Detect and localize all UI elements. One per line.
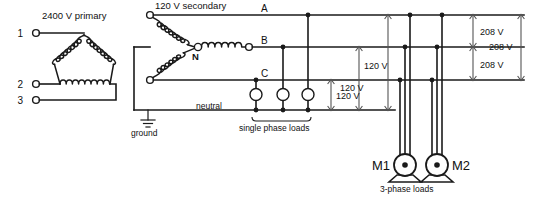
- primary-terminal-3-node: [33, 97, 40, 104]
- dim-120v-2-label: 120 V: [340, 83, 364, 93]
- three-phase-loads-label: 3-phase loads: [380, 184, 433, 194]
- load-1-symbol: [250, 89, 262, 101]
- primary-title-label: 2400 V primary: [42, 10, 107, 21]
- phase-b-label: B: [261, 35, 268, 46]
- primary-coil-right-tail: [110, 65, 114, 85]
- neutral-point-label: N: [192, 51, 199, 62]
- secondary-coil-a: [153, 18, 189, 45]
- primary-delta-group: [33, 30, 116, 104]
- motor-m2-label: M2: [452, 158, 470, 173]
- secondary-terminal-b-node: [246, 44, 253, 51]
- primary-terminal-1-label: 1: [17, 28, 23, 39]
- dim-208v-2-label: 208 V: [489, 42, 513, 52]
- primary-terminal-1-node: [33, 30, 40, 37]
- secondary-coil-c: [153, 53, 185, 78]
- transformer-wiring-diagram: 2400 V primary 120 V secondary 1 2 3 A B…: [0, 0, 533, 204]
- primary-coil-right: [83, 35, 115, 64]
- motor-m1-group: [389, 154, 421, 182]
- primary-coil-left: [53, 35, 85, 64]
- motor-m1-label: M1: [372, 158, 390, 173]
- single-phase-loads-label: single phase loads: [239, 123, 309, 133]
- neutral-point-node: [194, 43, 201, 50]
- ground-label: ground: [131, 128, 158, 138]
- motor-m2-group: [421, 154, 453, 182]
- primary-terminal-2-node: [33, 81, 40, 88]
- dim-120v-3-label: 120 V: [364, 61, 388, 71]
- m2-shaft-dot: [434, 162, 440, 168]
- primary-terminal-3-label: 3: [17, 95, 23, 106]
- single-phase-loads-brace: [252, 117, 311, 121]
- wiring-svg: 2400 V primary 120 V secondary 1 2 3 A B…: [0, 0, 533, 204]
- motor-feeders-group: [398, 13, 445, 160]
- load-2-symbol: [277, 89, 289, 101]
- single-phase-loads-group: [250, 13, 314, 121]
- dim-208v-1-label: 208 V: [480, 27, 504, 37]
- load-1-bottom-junction: [254, 108, 259, 113]
- load-3-symbol: [302, 89, 314, 101]
- neutral-bus-label: neutral: [196, 101, 222, 111]
- primary-coil-bottom: [60, 80, 110, 84]
- secondary-coil-b: [202, 43, 246, 48]
- primary-coil-left-tail: [55, 65, 61, 85]
- m1-shaft-dot: [402, 162, 408, 168]
- primary-terminal-2-label: 2: [17, 79, 23, 90]
- load-2-bottom-junction: [281, 108, 286, 113]
- secondary-title-label: 120 V secondary: [155, 0, 227, 11]
- dim-208v-3-label: 208 V: [480, 60, 504, 70]
- load-3-bottom-junction: [306, 108, 311, 113]
- phase-a-label: A: [261, 3, 268, 14]
- ground-symbol-group: [141, 110, 155, 127]
- phase-c-label: C: [261, 68, 268, 79]
- primary-lead-3: [39, 84, 116, 100]
